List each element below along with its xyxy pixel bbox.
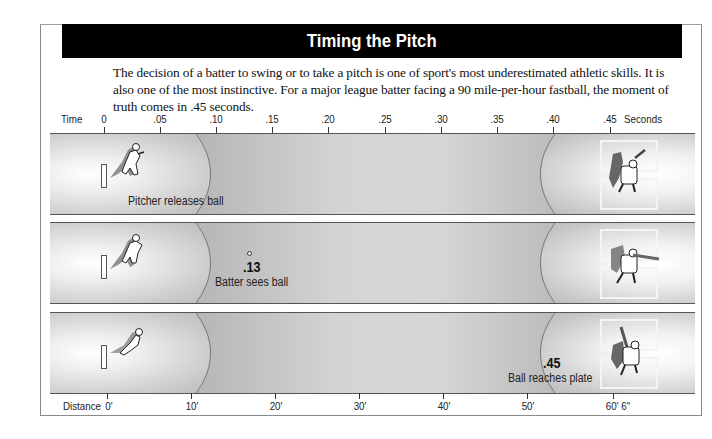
time-tick-label: .30 xyxy=(434,113,448,125)
panel-batter-sees: .13 Batter sees ball xyxy=(50,222,695,304)
time-tick-label: .45 xyxy=(603,113,617,125)
distance-tick-label: 0' xyxy=(105,400,112,412)
title-bar: Timing the Pitch xyxy=(62,24,682,58)
distance-tick xyxy=(443,393,444,399)
panel-caption: Ball reaches plate xyxy=(508,371,592,385)
distance-tick-label: 20' xyxy=(270,400,283,412)
distance-tick xyxy=(359,393,360,399)
panel-pitcher-releases: Pitcher releases ball xyxy=(50,133,695,215)
time-marker: .45 xyxy=(543,355,561,371)
distance-tick-label: 50' xyxy=(522,400,535,412)
distance-tick-label: 40' xyxy=(438,400,451,412)
pitcher-figure-icon xyxy=(108,140,148,185)
time-tick-label: .05 xyxy=(153,113,167,125)
time-tick-label: .35 xyxy=(490,113,504,125)
distance-tick xyxy=(191,393,192,399)
batter-figure-icon xyxy=(603,239,663,289)
time-tick-label: .15 xyxy=(265,113,279,125)
time-tick-label: 0 xyxy=(101,113,106,125)
distance-tick-label: 30' xyxy=(354,400,367,412)
time-marker: .13 xyxy=(243,259,261,275)
time-tick-label: .40 xyxy=(546,113,560,125)
time-tick-label: .10 xyxy=(209,113,223,125)
batter-figure-icon xyxy=(603,323,653,379)
page-title: Timing the Pitch xyxy=(307,30,437,52)
batter-figure-icon xyxy=(603,148,649,198)
distance-tick xyxy=(527,393,528,399)
pitching-rubber xyxy=(101,345,107,369)
distance-tick xyxy=(107,393,108,399)
panel-ball-reaches: .45 Ball reaches plate xyxy=(50,312,695,394)
distance-axis-label: Distance xyxy=(63,400,101,412)
panel-caption: Pitcher releases ball xyxy=(128,194,224,208)
intro-text: The decision of a batter to swing or to … xyxy=(113,64,673,115)
distance-tick xyxy=(613,393,614,399)
time-axis-label: Time xyxy=(61,113,82,125)
pitching-rubber xyxy=(101,255,107,279)
pitching-rubber xyxy=(101,164,107,188)
distance-tick xyxy=(275,393,276,399)
pitcher-figure-icon xyxy=(108,323,148,363)
time-unit-label: Seconds xyxy=(624,113,662,125)
pitcher-figure-icon xyxy=(108,231,148,276)
time-tick-label: .25 xyxy=(378,113,392,125)
distance-tick-label: 10' xyxy=(186,400,199,412)
baseball-icon xyxy=(247,251,252,256)
distance-tick-label: 60' 6" xyxy=(606,400,630,412)
time-tick-label: .20 xyxy=(321,113,335,125)
panel-caption: Batter sees ball xyxy=(215,275,288,289)
